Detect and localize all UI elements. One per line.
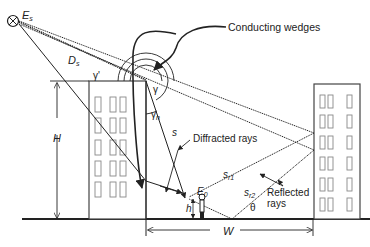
label-theta: θ (250, 202, 256, 213)
diffracted-rays-callout (166, 140, 190, 192)
reflected-rays-callout (260, 174, 283, 186)
source-icon (8, 16, 19, 27)
reflected-rays-label-1: Reflected (267, 187, 309, 198)
right-building (314, 84, 360, 219)
label-sr1: sr1 (223, 169, 234, 181)
label-gamma: γ (153, 84, 158, 95)
label-sr2: sr2 (244, 187, 255, 199)
diffracted-rays-label: Diffracted rays (193, 133, 257, 144)
label-gamma-n: γn (151, 109, 160, 121)
diagram-canvas: Es Ds γ' γ γn H s Diffracted rays Conduc… (0, 0, 370, 247)
label-Es: Es (22, 9, 33, 22)
label-W: W (223, 225, 235, 237)
label-gamma-prime: γ' (93, 70, 100, 81)
label-Ds: Ds (68, 54, 80, 67)
diffracted-ray-s (146, 81, 185, 198)
label-h: h (186, 203, 192, 214)
label-s: s (172, 127, 177, 138)
conducting-wedges-callout (133, 26, 226, 188)
incident-rays (19, 21, 314, 150)
label-H: H (53, 132, 61, 144)
reflected-rays-label-2: rays (267, 198, 286, 209)
height-H-dimension (50, 81, 89, 218)
conducting-wedges-label: Conducting wedges (228, 21, 320, 33)
